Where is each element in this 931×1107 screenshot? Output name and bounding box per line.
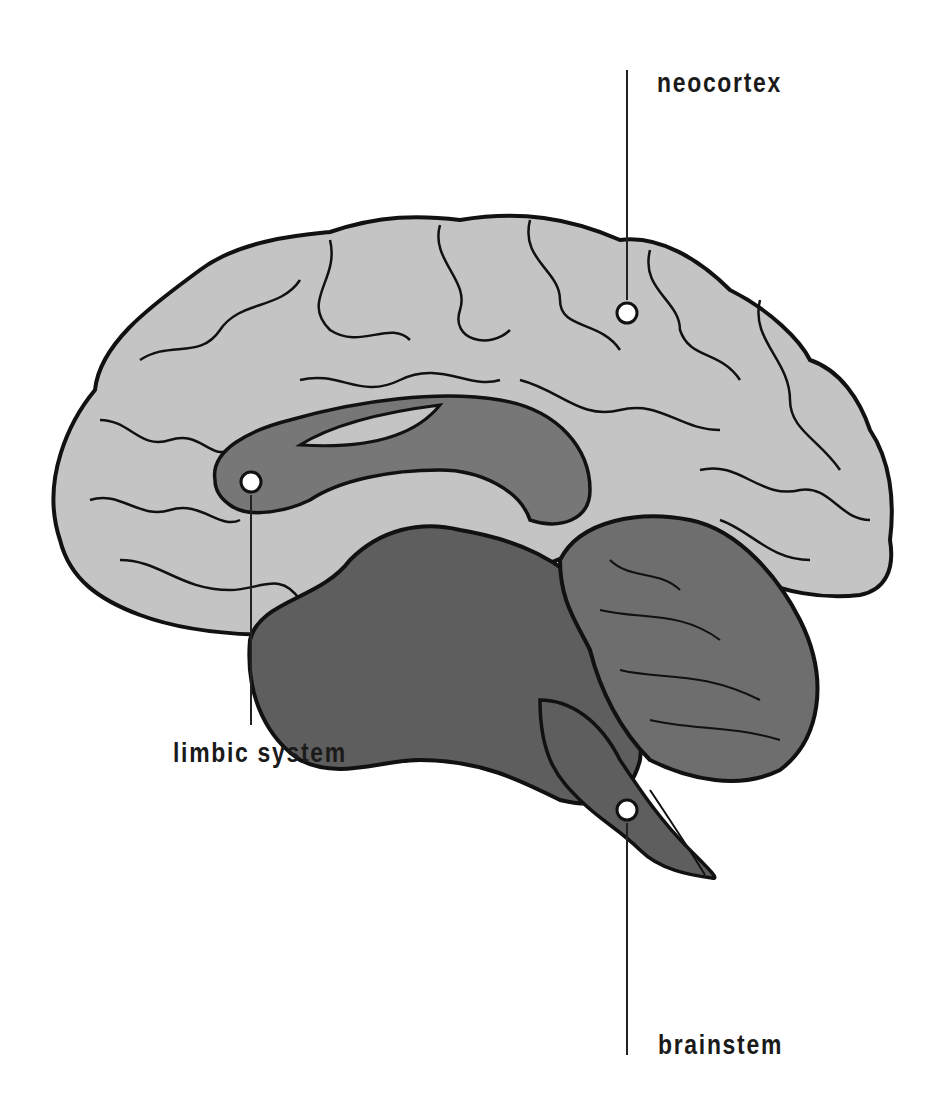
neocortex-label: neocortex xyxy=(657,68,782,99)
brainstem-marker xyxy=(617,800,637,820)
neocortex-marker xyxy=(617,303,637,323)
limbic-system-label: limbic system xyxy=(173,738,347,769)
brain-diagram: neocortex limbic system brainstem xyxy=(0,0,931,1107)
limbic-marker xyxy=(241,472,261,492)
brainstem-label: brainstem xyxy=(658,1030,783,1061)
brain-illustration xyxy=(0,0,931,1107)
